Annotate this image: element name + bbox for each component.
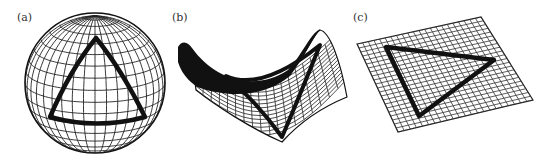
curvature-triangles-figure: (a) (b) (c) — [0, 0, 554, 161]
panel-label-c: (c) — [353, 12, 368, 23]
sphere-surface — [25, 13, 165, 153]
saddle-surface — [178, 29, 355, 142]
panel-label-a: (a) — [17, 12, 32, 23]
panel-label-b: (b) — [172, 12, 188, 23]
figure-drawing — [0, 0, 554, 161]
plane-surface — [357, 17, 533, 132]
